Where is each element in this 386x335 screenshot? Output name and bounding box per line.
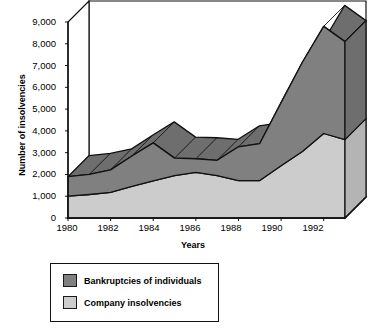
legend-label-company: Company insolvencies	[84, 298, 182, 308]
chart-figure: Number of insolvencies 0 1,000 2,000 3,0…	[0, 0, 386, 335]
legend-swatch-company	[63, 296, 77, 309]
legend-item-company: Company insolvencies	[63, 296, 182, 309]
legend-item-bankruptcies: Bankruptcies of individuals	[63, 274, 202, 287]
chart-legend: Bankruptcies of individuals Company inso…	[50, 263, 219, 322]
legend-label-bankruptcies: Bankruptcies of individuals	[84, 276, 202, 286]
legend-swatch-bankruptcies	[63, 274, 77, 287]
